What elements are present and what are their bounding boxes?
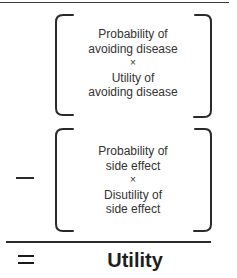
term1-multiply-sign: ×	[68, 56, 198, 71]
term2-line-4: Disutility of	[68, 188, 198, 203]
term2-line-2: side effect	[68, 159, 198, 174]
equals-operator	[18, 255, 34, 264]
term1-line-4: Utility of	[68, 71, 198, 86]
term1-line-2: avoiding disease	[68, 42, 198, 57]
term1-line-1: Probability of	[68, 27, 198, 42]
result-label: Utility	[80, 249, 190, 271]
equals-bar-top	[18, 255, 34, 257]
term1-line-5: avoiding disease	[68, 85, 198, 100]
term1-expression: Probability of avoiding disease × Utilit…	[68, 27, 198, 100]
minus-operator	[16, 177, 34, 179]
term2-expression: Probability of side effect × Disutility …	[68, 144, 198, 217]
term2-line-1: Probability of	[68, 144, 198, 159]
equals-bar-bottom	[18, 262, 34, 264]
term2-line-5: side effect	[68, 202, 198, 217]
sum-divider-line	[6, 241, 211, 243]
term2-multiply-sign: ×	[68, 173, 198, 188]
